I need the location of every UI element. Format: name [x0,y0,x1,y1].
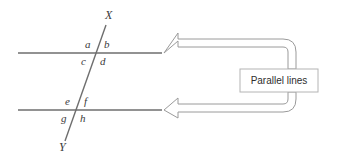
callout-label-text: Parallel lines [241,70,317,91]
geometry-figure: a b c d e f g h X Y Parallel lines [0,0,349,162]
transversal-endpoint-label-x: X [105,9,112,21]
angle-label-h: h [80,113,86,124]
angle-label-a: a [85,39,91,50]
angle-label-e: e [65,96,70,107]
transversal-endpoint-label-y: Y [59,141,66,153]
callout-arrow-lower [164,92,296,118]
angle-label-d: d [100,56,106,67]
angle-label-c: c [81,56,86,67]
callout-arrow-upper [164,33,296,69]
angle-label-g: g [61,113,67,124]
angle-label-f: f [84,96,87,107]
angle-label-b: b [104,39,110,50]
